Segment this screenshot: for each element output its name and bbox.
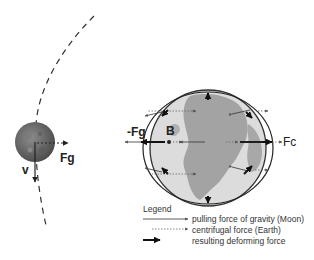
legend-label: pulling force of gravity (Moon) — [192, 214, 304, 224]
label-fc: Fc — [283, 136, 296, 148]
legend-label: centrifugal force (Earth) — [192, 225, 281, 235]
legend-label: resulting deforming force — [192, 236, 286, 246]
moon-orbit-path — [36, 16, 94, 225]
point-b-marker — [167, 140, 171, 144]
earth — [150, 90, 266, 206]
legend-item-centrifugal: centrifugal force (Earth) — [140, 225, 314, 235]
legend-item-deforming: resulting deforming force — [140, 236, 314, 246]
label-b: B — [166, 125, 175, 137]
legend-title: Legend — [143, 204, 171, 214]
label-v: v — [22, 164, 29, 176]
label-fg: Fg — [60, 152, 75, 164]
label-neg-fg: -Fg — [127, 126, 146, 138]
legend-item-gravity: pulling force of gravity (Moon) — [140, 214, 314, 224]
